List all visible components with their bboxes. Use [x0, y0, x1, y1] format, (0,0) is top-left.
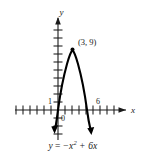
equation-equals: =	[55, 141, 61, 151]
origin-label: 0	[61, 114, 65, 123]
x-axis-label: x	[130, 105, 135, 115]
x-axis-group: x	[15, 105, 135, 115]
graph-canvas: x y 1 0	[0, 0, 146, 162]
y-axis-arrowhead	[55, 17, 61, 25]
curve-left-arrowhead	[51, 125, 58, 134]
y-unit-tick-label: 1	[48, 97, 52, 106]
y-axis-label: y	[59, 7, 64, 17]
x-axis-arrowhead	[119, 107, 127, 113]
equation-term-two: + 6x	[79, 141, 98, 151]
parabola-figure: x y 1 0	[0, 0, 146, 162]
curve-right-arrowhead	[87, 127, 94, 135]
equation-caption: y=−x2+ 6x	[0, 141, 146, 151]
equation-lhs: y	[48, 141, 52, 151]
equation-term-one: −x	[62, 141, 73, 151]
vertex-point-marker	[71, 48, 75, 52]
x-intercept-tick-label: 6	[96, 97, 100, 106]
equation-exponent: 2	[74, 139, 77, 146]
vertex-label: (3, 9)	[78, 37, 97, 47]
